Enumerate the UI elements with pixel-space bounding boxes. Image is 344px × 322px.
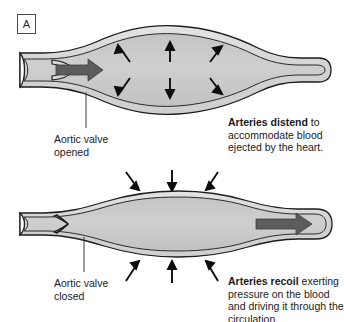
- panel-label-a-text: A: [23, 19, 30, 30]
- caption-arteries-recoil: Arteries recoil exerting pressure on the…: [228, 275, 344, 322]
- caption-recoil-lead: Arteries recoil: [228, 275, 299, 287]
- top-vessel-group: [20, 26, 331, 128]
- aortic-valve-opened-label: Aortic valve opened: [54, 133, 140, 158]
- caption-arteries-distend: Arteries distend to accommodate blood ej…: [228, 116, 344, 154]
- bottom-vessel-group: [20, 170, 332, 283]
- panel-label-a: A: [17, 14, 36, 34]
- aortic-valve-closed-label: Aortic valve closed: [54, 277, 140, 302]
- bottom-pressure-arrows-inward-top: [126, 170, 218, 191]
- caption-distend-lead: Arteries distend: [228, 116, 308, 128]
- arterial-elasticity-figure: A Aortic valve opened Aortic valve close…: [0, 0, 344, 322]
- diagram-canvas: [0, 0, 344, 322]
